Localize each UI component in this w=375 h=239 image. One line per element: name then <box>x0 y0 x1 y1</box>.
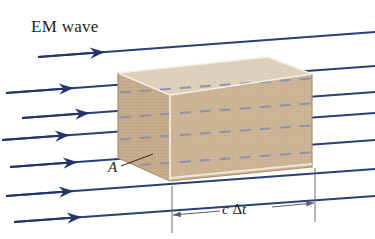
em-wave-label: EM wave <box>31 17 99 37</box>
wave-arrow <box>22 113 89 118</box>
wave-arrow <box>10 162 77 167</box>
wave-arrow <box>6 191 73 196</box>
area-label: A <box>108 159 117 176</box>
length-symbol-delta: Δ <box>232 201 242 217</box>
wave-arrow <box>38 52 104 57</box>
length-symbol-t: t <box>242 201 246 217</box>
wave-arrow <box>14 217 81 222</box>
dimension-arrow-left <box>173 211 220 215</box>
length-symbol-c: c <box>222 201 229 217</box>
wave-arrow <box>6 88 73 93</box>
length-label: c Δt <box>222 201 246 218</box>
wave-arrow <box>2 135 69 140</box>
em-wave-arrowheads <box>2 52 104 222</box>
